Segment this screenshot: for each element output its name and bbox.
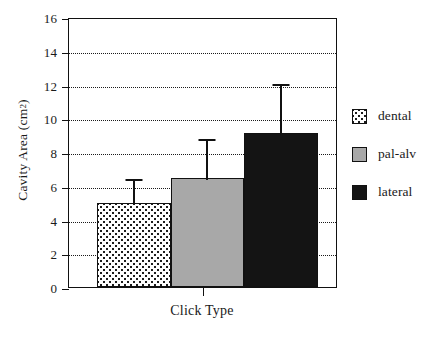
bar-pal-alv[interactable] <box>171 178 245 287</box>
y-axis-tick <box>62 87 69 88</box>
error-bar-cap-pal-alv <box>199 139 216 141</box>
y-axis-tick-label: 6 <box>23 180 57 196</box>
legend-label-pal-alv: pal-alv <box>378 146 416 162</box>
y-axis-tick <box>62 188 69 189</box>
error-bar-stem-dental <box>133 179 135 205</box>
y-axis-tick-label: 12 <box>23 79 57 95</box>
y-axis-tick-label: 14 <box>23 45 57 61</box>
y-axis-tick <box>62 120 69 121</box>
y-axis-tick-label: 10 <box>23 112 57 128</box>
gridline <box>69 53 336 54</box>
y-axis-tick <box>62 289 69 290</box>
stipple-swatch-icon <box>352 109 367 124</box>
y-axis-tick-label: 2 <box>23 247 57 263</box>
x-axis-label: Click Type <box>66 303 338 319</box>
y-axis-tick-label: 0 <box>23 281 57 297</box>
y-axis-tick-label: 8 <box>23 146 57 162</box>
legend-label-dental: dental <box>378 108 412 124</box>
error-bar-stem-pal-alv <box>206 139 208 180</box>
y-axis-tick <box>62 154 69 155</box>
y-axis-tick-label: 16 <box>23 11 57 27</box>
y-axis-label-tail: ) <box>15 99 31 104</box>
error-bar-cap-dental <box>125 179 142 181</box>
legend-item-dental[interactable]: dental <box>352 108 442 124</box>
plot-inner <box>69 19 336 287</box>
legend-item-lateral[interactable]: lateral <box>352 184 442 200</box>
legend-item-pal-alv[interactable]: pal-alv <box>352 146 442 162</box>
bar-dental[interactable] <box>97 203 171 287</box>
y-axis-tick <box>62 255 69 256</box>
gray-swatch-icon <box>352 147 367 162</box>
gridline <box>69 120 336 121</box>
error-bar-cap-lateral <box>272 84 289 86</box>
plot-area: 0246810121416 <box>68 18 337 288</box>
bar-lateral[interactable] <box>244 133 318 287</box>
x-axis-center-tick <box>203 287 204 296</box>
bar-chart-figure: Cavity Area (cm2) 0246810121416 Click Ty… <box>0 0 442 340</box>
legend-label-lateral: lateral <box>378 184 412 200</box>
y-axis-tick <box>62 222 69 223</box>
y-axis-tick <box>62 53 69 54</box>
y-axis-tick-label: 4 <box>23 214 57 230</box>
gridline <box>69 87 336 88</box>
y-axis-tick <box>62 19 69 20</box>
error-bar-stem-lateral <box>280 84 282 135</box>
y-axis-label-exponent: 2 <box>18 104 28 109</box>
chart-legend: dental pal-alv lateral <box>352 108 442 200</box>
black-swatch-icon <box>352 185 367 200</box>
